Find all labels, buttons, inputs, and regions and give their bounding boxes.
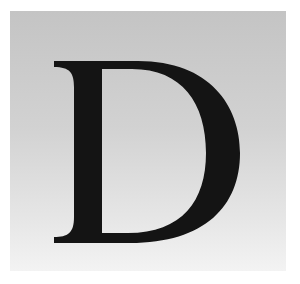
letter-d-glyph: D <box>10 11 286 271</box>
letter-tile: D <box>10 11 286 271</box>
